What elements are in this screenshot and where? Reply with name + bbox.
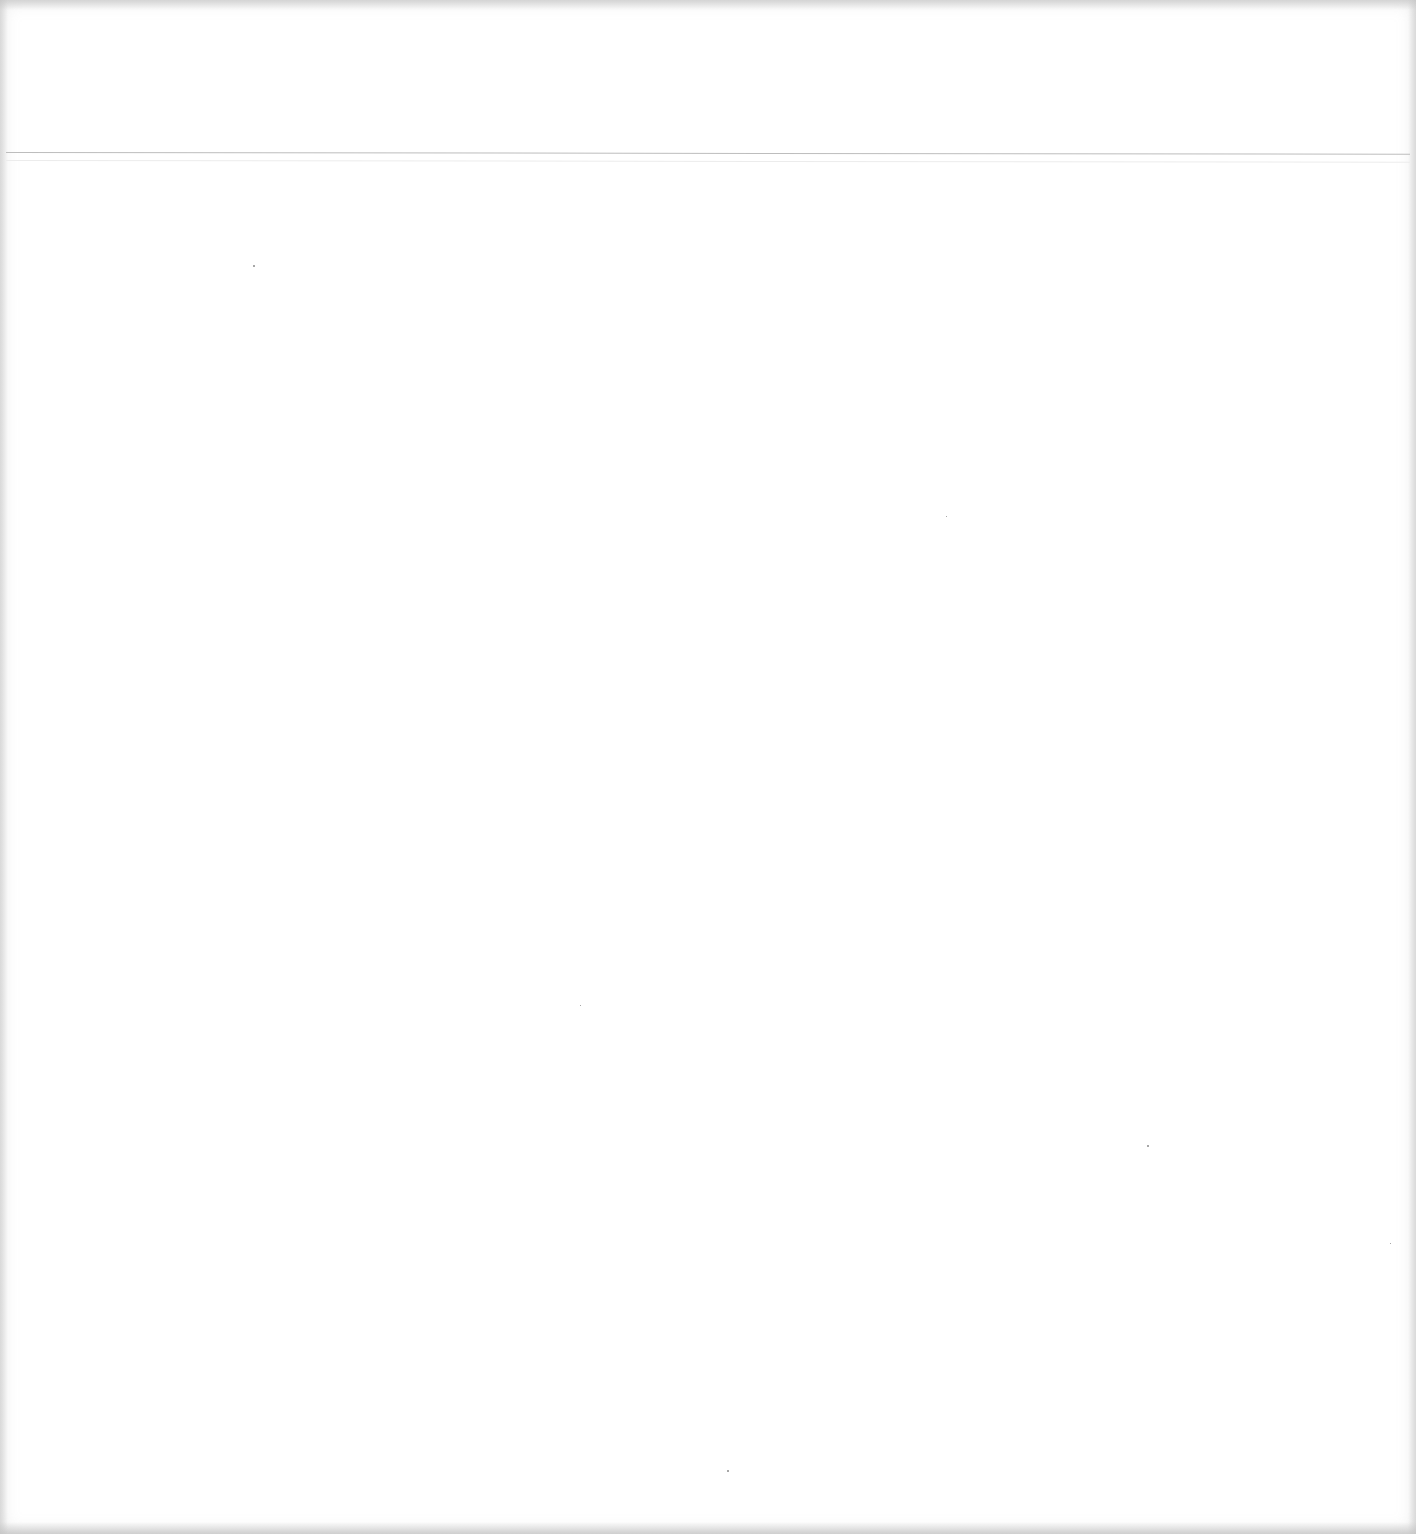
scan-edge-right	[1408, 0, 1416, 1534]
scan-edge-bottom	[0, 1522, 1416, 1534]
header-rule-shadow	[6, 160, 1410, 163]
blank-page	[0, 0, 1416, 1534]
scan-speck	[946, 516, 947, 517]
scan-speck	[727, 1470, 729, 1472]
header-rule	[6, 152, 1410, 155]
scan-speck	[580, 1005, 581, 1006]
scan-speck	[253, 265, 255, 267]
scan-speck	[1390, 1243, 1391, 1244]
scan-edge-left	[0, 0, 8, 1534]
scan-edge-top	[0, 0, 1416, 10]
scan-speck	[1147, 1145, 1149, 1147]
